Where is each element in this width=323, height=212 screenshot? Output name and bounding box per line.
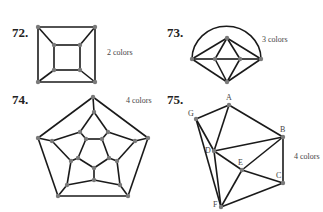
graph-vertex — [212, 149, 216, 153]
graph-edge — [196, 119, 214, 151]
graph-edge — [196, 105, 229, 119]
graph-73 — [190, 26, 263, 84]
graph-vertex — [65, 183, 69, 187]
arc-edge — [192, 26, 261, 59]
graph-72 — [36, 25, 97, 84]
graph-vertex — [50, 139, 54, 143]
graph-edge — [38, 70, 54, 82]
graph-edge — [94, 158, 109, 168]
graph-vertex — [93, 80, 97, 84]
graph-vertex — [36, 136, 40, 140]
graph-vertex — [259, 57, 263, 61]
graph-75 — [194, 103, 285, 209]
graph-edge — [102, 139, 109, 158]
graph-edge — [52, 132, 80, 141]
graph-edge — [229, 105, 283, 137]
graph-vertex — [106, 130, 110, 134]
graph-edge — [93, 97, 94, 112]
graph-edge — [214, 105, 229, 151]
graph-vertex — [78, 68, 82, 72]
graph-vertex — [213, 57, 217, 61]
graph-vertex — [146, 136, 150, 140]
graph-edge — [196, 119, 221, 207]
graph-vertex — [194, 117, 198, 121]
graph-edge — [227, 59, 261, 82]
graph-edge — [38, 138, 58, 196]
graph-edge — [52, 141, 71, 161]
graph-edge — [38, 27, 54, 45]
graph-vertex — [91, 95, 95, 99]
graph-edge — [214, 151, 221, 207]
graph-vertex — [92, 178, 96, 182]
graph-edge — [94, 180, 120, 185]
graph-edge — [221, 183, 283, 207]
graph-edge — [80, 27, 95, 45]
graph-edge — [94, 112, 108, 132]
graph-edge — [93, 97, 148, 138]
graph-vertex — [225, 80, 229, 84]
graph-edge — [214, 151, 242, 170]
graph-vertex — [69, 159, 73, 163]
graph-vertex — [52, 43, 56, 47]
graph-edge — [78, 139, 86, 158]
graph-vertex — [133, 139, 137, 143]
graph-vertex — [107, 156, 111, 160]
graph-vertex — [56, 194, 60, 198]
graph-vertex — [52, 68, 56, 72]
graph-vertex — [281, 181, 285, 185]
graph-edge — [214, 137, 283, 151]
graph-vertex — [36, 25, 40, 29]
graph-edge — [242, 170, 283, 183]
graph-74 — [36, 95, 150, 198]
graph-vertex — [219, 205, 223, 209]
graph-vertex — [100, 137, 104, 141]
graph-vertex — [126, 194, 130, 198]
graph-vertex — [118, 183, 122, 187]
graph-vertex — [225, 36, 229, 40]
graph-vertex — [281, 135, 285, 139]
graph-vertex — [93, 25, 97, 29]
graph-edge — [78, 158, 94, 168]
graph-vertex — [190, 57, 194, 61]
graph-edge — [117, 141, 135, 161]
graph-edge — [117, 161, 120, 185]
graph-vertex — [115, 159, 119, 163]
graph-edge — [80, 112, 94, 132]
graph-vertex — [238, 57, 242, 61]
graph-vertex — [92, 166, 96, 170]
graph-vertex — [240, 168, 244, 172]
graph-edge — [221, 170, 242, 207]
graph-vertex — [78, 130, 82, 134]
graph-vertex — [84, 137, 88, 141]
graph-vertex — [78, 43, 82, 47]
graph-vertex — [36, 80, 40, 84]
graph-vertex — [227, 103, 231, 107]
graph-vertex — [92, 110, 96, 114]
graph-edge — [67, 161, 71, 185]
graph-edge — [67, 180, 94, 185]
graph-vertex — [76, 156, 80, 160]
graph-edge — [38, 97, 93, 138]
graph-edge — [80, 70, 95, 82]
graphs-canvas — [0, 0, 323, 212]
graph-edge — [108, 132, 135, 141]
graph-edge — [128, 138, 148, 196]
